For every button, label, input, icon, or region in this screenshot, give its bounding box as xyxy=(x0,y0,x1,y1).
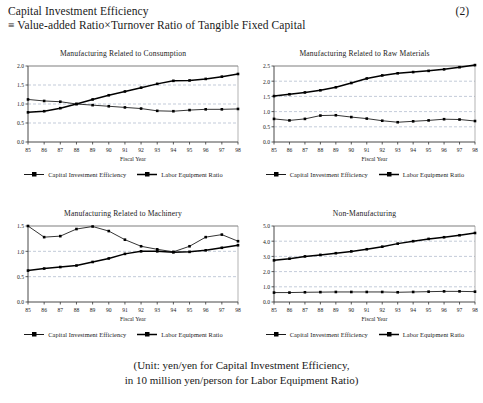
data-point-marker xyxy=(412,120,415,123)
x-tick-label: 97 xyxy=(457,147,463,153)
x-tick-label: 88 xyxy=(318,147,324,153)
data-point-marker xyxy=(381,245,384,248)
data-point-marker xyxy=(237,73,240,76)
data-point-marker xyxy=(237,244,240,247)
equation-line-2: ≡ Value‐added Ratio×Turnover Ratio of Ta… xyxy=(8,18,305,32)
plot-area-non-manufacturing: 0.01.02.03.04.05.08586878889909192939495… xyxy=(246,220,483,330)
equation-block: Capital Investment Efficiency ≡ Value‐ad… xyxy=(8,4,475,32)
x-tick-label: 85 xyxy=(271,307,277,313)
legend-item-capital-investment-efficiency: Capital Investment Efficiency xyxy=(265,171,368,178)
data-point-marker xyxy=(319,254,322,257)
x-tick-label: 93 xyxy=(154,147,160,153)
x-tick-label: 90 xyxy=(349,147,355,153)
x-tick-label: 98 xyxy=(472,147,478,153)
x-tick-label: 90 xyxy=(106,307,112,313)
x-tick-label: 86 xyxy=(287,307,293,313)
footer-line-1: (Unit: yen/yen for Capital Investment Ef… xyxy=(0,358,483,373)
data-point-marker xyxy=(27,111,30,114)
legend-machinery: Capital Investment Efficiency Labor Equi… xyxy=(0,331,246,338)
footer-line-2: in 10 million yen/person for Labor Equip… xyxy=(0,373,483,388)
data-point-marker xyxy=(43,236,46,239)
data-point-marker xyxy=(237,108,240,111)
data-point-marker xyxy=(474,232,477,235)
x-tick-label: 95 xyxy=(426,147,432,153)
y-tick-label: 2.0 xyxy=(263,79,270,85)
plot-area-consumption: 0.00.51.01.52.08586878889909192939495969… xyxy=(0,60,246,170)
data-point-marker xyxy=(365,77,368,80)
x-tick-label: 91 xyxy=(364,147,370,153)
legend-item-labor-equipment-ratio: Labor Equipment Ratio xyxy=(378,331,464,338)
data-point-marker xyxy=(156,250,159,253)
filled-square-marker-icon xyxy=(23,331,45,338)
x-tick-label: 96 xyxy=(203,147,209,153)
x-tick-label: 90 xyxy=(349,307,355,313)
data-point-marker xyxy=(458,66,461,69)
data-point-marker xyxy=(91,104,94,107)
x-tick-label: 88 xyxy=(74,147,80,153)
plot-area-raw-materials: 0.00.51.01.52.02.58586878889909192939495… xyxy=(246,60,483,170)
data-point-marker xyxy=(140,245,143,248)
data-point-marker xyxy=(304,291,307,294)
data-point-marker xyxy=(365,248,368,251)
y-tick-label: 0.0 xyxy=(263,139,270,145)
data-point-marker xyxy=(124,253,127,256)
plot-svg-consumption: 0.00.51.01.52.08586878889909192939495969… xyxy=(0,60,246,170)
x-tick-label: 96 xyxy=(441,147,447,153)
data-point-marker xyxy=(365,117,368,120)
plot-svg-machinery: 0.00.51.01.58586878889909192939495969798… xyxy=(0,220,246,330)
x-tick-label: 92 xyxy=(379,147,385,153)
data-point-marker xyxy=(350,291,353,294)
x-tick-label: 91 xyxy=(364,307,370,313)
y-tick-label: 2.0 xyxy=(263,269,270,275)
x-tick-label: 85 xyxy=(25,147,31,153)
data-point-marker xyxy=(204,236,207,239)
data-point-marker xyxy=(107,105,110,108)
data-point-marker xyxy=(474,290,477,293)
chart-panel-non-manufacturing: Non-Manufacturing 0.01.02.03.04.05.08586… xyxy=(246,194,483,353)
data-point-marker xyxy=(140,250,143,253)
data-point-marker xyxy=(188,79,191,82)
data-point-marker xyxy=(365,291,368,294)
equation-line-1: Capital Investment Efficiency xyxy=(8,4,305,18)
chart-panel-consumption: Manufacturing Related to Consumption 0.0… xyxy=(0,48,246,194)
y-tick-label: 1.5 xyxy=(263,94,270,100)
data-point-marker xyxy=(335,114,338,117)
x-tick-label: 88 xyxy=(74,307,80,313)
y-tick-label: 3.0 xyxy=(263,254,270,260)
x-tick-label: 86 xyxy=(41,147,47,153)
y-tick-label: 1.5 xyxy=(17,223,24,229)
data-point-marker xyxy=(204,78,207,81)
x-tick-label: 87 xyxy=(58,147,64,153)
filled-square-marker-icon xyxy=(136,331,158,338)
data-point-marker xyxy=(273,95,276,98)
data-point-marker xyxy=(427,119,430,122)
data-point-marker xyxy=(124,106,127,109)
data-point-marker xyxy=(381,119,384,122)
data-point-marker xyxy=(396,242,399,245)
legend-item-labor-equipment-ratio: Labor Equipment Ratio xyxy=(136,171,222,178)
data-point-marker xyxy=(288,119,291,122)
data-point-marker xyxy=(204,249,207,252)
data-point-marker xyxy=(75,264,78,267)
legend-label-2: Labor Equipment Ratio xyxy=(160,331,222,338)
x-tick-label: 92 xyxy=(379,307,385,313)
data-point-marker xyxy=(172,80,175,83)
chart-panel-machinery: Manufacturing Related to Machinery 0.00.… xyxy=(0,194,246,353)
data-point-marker xyxy=(304,118,307,121)
legend-item-labor-equipment-ratio: Labor Equipment Ratio xyxy=(378,171,464,178)
x-tick-label: 95 xyxy=(187,307,193,313)
data-point-marker xyxy=(221,75,224,78)
x-tick-label: 86 xyxy=(41,307,47,313)
legend-label-1: Capital Investment Efficiency xyxy=(289,171,368,178)
data-point-marker xyxy=(335,291,338,294)
legend-item-capital-investment-efficiency: Capital Investment Efficiency xyxy=(265,331,368,338)
x-tick-label: 85 xyxy=(271,147,277,153)
x-tick-label: 87 xyxy=(302,147,308,153)
data-point-marker xyxy=(396,121,399,124)
data-point-marker xyxy=(27,225,30,228)
data-point-marker xyxy=(412,240,415,243)
data-point-marker xyxy=(221,246,224,249)
x-tick-label: 97 xyxy=(219,307,225,313)
data-point-marker xyxy=(188,109,191,112)
data-point-marker xyxy=(75,103,78,106)
